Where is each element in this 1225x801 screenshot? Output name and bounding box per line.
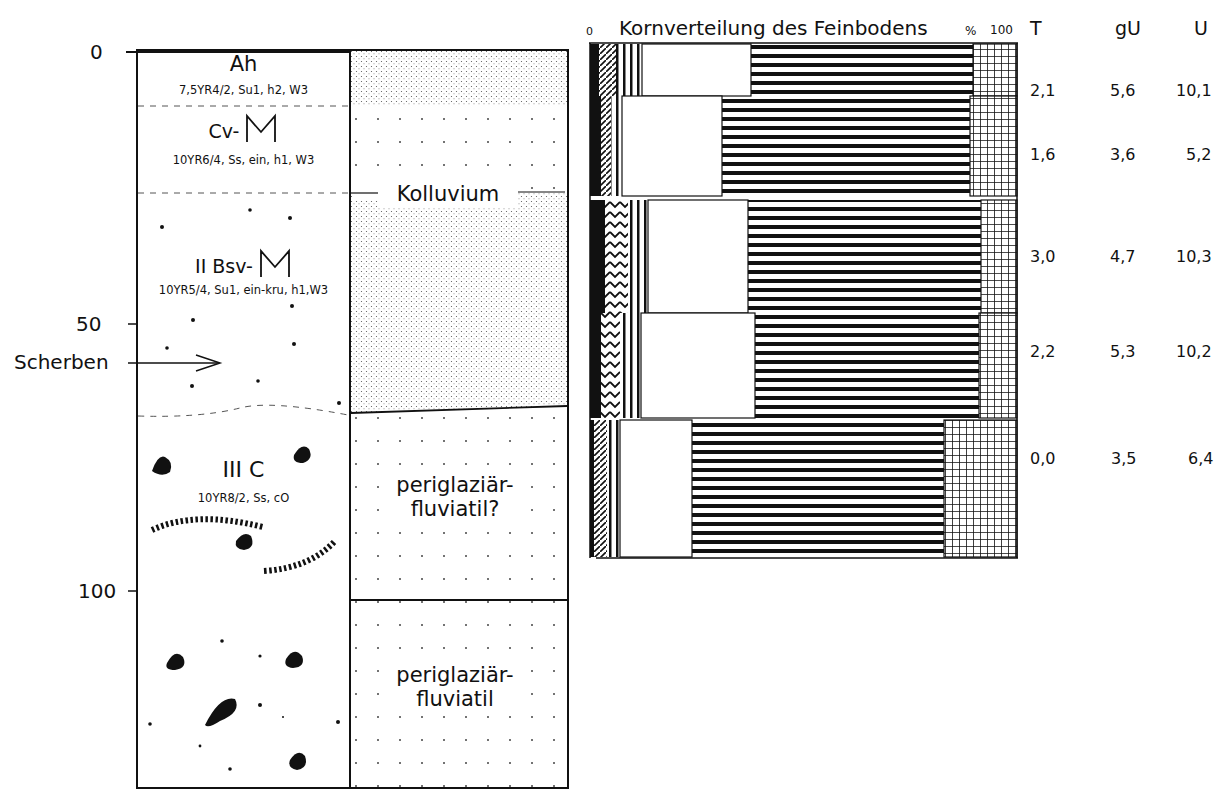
horizon-cv-name: Cv- (209, 120, 240, 142)
value-gu: 4,7 (1110, 247, 1135, 266)
column-header-t: T (1030, 17, 1042, 39)
substrate-kolluvium: Kolluvium (378, 182, 518, 206)
horizon-iiic-name: III C (137, 457, 350, 482)
value-gu: 3,6 (1110, 145, 1135, 164)
value-t: 1,6 (1030, 145, 1055, 164)
substrate-periglacial-uncertain-line2: fluviatil? (392, 497, 518, 521)
value-u: 6,4 (1188, 449, 1213, 468)
substrate-periglacial-line1: periglaziär- (392, 663, 518, 687)
depth-tick-50: 50 (76, 312, 101, 336)
value-u: 10,1 (1176, 81, 1212, 100)
value-gu: 5,3 (1110, 342, 1135, 361)
substrate-periglacial-uncertain-line1: periglaziär- (392, 473, 518, 497)
value-gu: 5,6 (1110, 81, 1135, 100)
horizon-ah-name: Ah (137, 52, 350, 76)
horizon-bsv-name: II Bsv- (195, 255, 253, 277)
chart-title: Kornverteilung des Feinbodens (619, 16, 928, 40)
horizon-cv-title: Cv- (137, 112, 350, 144)
horizon-iiic-props: 10YR8/2, Ss, cO (137, 491, 350, 505)
value-u: 5,2 (1186, 145, 1211, 164)
value-gu: 3,5 (1111, 449, 1136, 468)
horizon-ah-props: 7,5YR4/2, Su1, h2, W3 (137, 83, 350, 97)
horizon-bsv-title: II Bsv- (137, 247, 350, 279)
column-header-gu: gU (1115, 17, 1141, 39)
grain-size-bars (589, 43, 1018, 558)
depth-tick-100: 100 (78, 579, 116, 603)
depth-tick-0: 0 (90, 40, 103, 64)
scherben-marker-label: Scherben (14, 350, 109, 374)
horizon-bsv-props: 10YR5/4, Su1, ein-kru, h1,W3 (137, 283, 350, 297)
chart-unit: % (965, 24, 976, 38)
chart-axis-max: 100 (990, 23, 1013, 37)
value-t: 2,1 (1030, 81, 1055, 100)
horizon-cv-props: 10YR6/4, Ss, ein, h1, W3 (137, 153, 350, 167)
column-header-u: U (1194, 17, 1208, 39)
value-u: 10,2 (1176, 342, 1212, 361)
cambic-symbol-icon (258, 247, 292, 279)
value-t: 3,0 (1030, 247, 1055, 266)
cambic-symbol-icon (244, 112, 278, 144)
value-t: 2,2 (1030, 342, 1055, 361)
chart-axis-min: 0 (586, 25, 593, 38)
substrate-periglacial-line2: fluviatil (392, 687, 518, 711)
value-t: 0,0 (1030, 449, 1055, 468)
value-u: 10,3 (1176, 247, 1212, 266)
